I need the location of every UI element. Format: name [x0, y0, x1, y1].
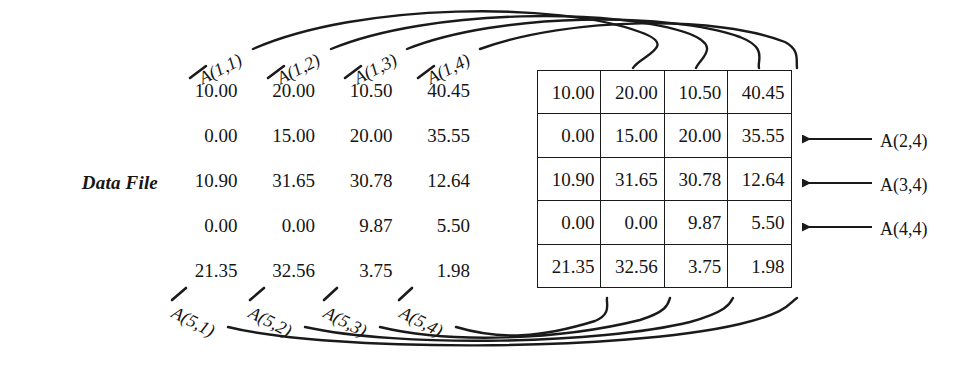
- data-file-cell: 35.55: [399, 123, 477, 149]
- table-row: 10.00 20.00 10.50 40.45: [538, 71, 792, 114]
- data-file-row: 21.35 32.56 3.75 1.98: [166, 258, 476, 284]
- data-file-cell: 0.00: [166, 123, 244, 149]
- data-file-cell: 1.98: [399, 258, 477, 284]
- array-cell: 12.64: [728, 158, 791, 201]
- data-file-cell: 31.65: [244, 168, 322, 194]
- data-file-cell: 12.64: [399, 168, 477, 194]
- data-file-cell: 5.50: [399, 213, 477, 239]
- array-cell: 15.00: [601, 114, 664, 157]
- data-file-values: 10.00 20.00 10.50 40.45 0.00 15.00 20.00…: [166, 78, 476, 293]
- array-cell: 0.00: [601, 201, 664, 244]
- array-cell: 21.35: [538, 245, 601, 288]
- data-file-cell: 3.75: [321, 258, 399, 284]
- array-cell: 3.75: [665, 245, 728, 288]
- side-label-a-2-4: A(2,4): [880, 132, 928, 150]
- data-file-cell: 32.56: [244, 258, 322, 284]
- curve-label-a-5-4: A(5,4): [396, 302, 446, 341]
- array-table: 10.00 20.00 10.50 40.45 0.00 15.00 20.00…: [537, 70, 792, 288]
- curve-a-5-2: [305, 298, 733, 341]
- table-row: 21.35 32.56 3.75 1.98: [538, 245, 792, 288]
- array-cell: 0.00: [538, 114, 601, 157]
- array-cell: 0.00: [538, 201, 601, 244]
- array-cell: 5.50: [728, 201, 791, 244]
- bottom-curve-group: [228, 298, 797, 345]
- array-cell: 10.90: [538, 158, 601, 201]
- data-file-label: Data File: [18, 172, 158, 194]
- data-file-row: 10.90 31.65 30.78 12.64: [166, 168, 476, 194]
- curve-a-5-1: [228, 298, 797, 345]
- data-file-cell: 0.00: [166, 213, 244, 239]
- array-cell: 20.00: [665, 114, 728, 157]
- side-label-a-4-4: A(4,4): [880, 220, 928, 238]
- array-cell: 32.56: [601, 245, 664, 288]
- top-curve-group: [253, 11, 797, 68]
- side-arrow-group: [802, 139, 872, 227]
- data-file-cell: 20.00: [321, 123, 399, 149]
- curve-label-a-5-1: A(5,1): [168, 302, 218, 341]
- array-cell: 20.00: [601, 71, 664, 114]
- array-mapping-diagram: Data File 10.00 20.00 10.50 40.45 0.00 1…: [0, 0, 954, 367]
- side-label-a-3-4: A(3,4): [880, 176, 928, 194]
- table-row: 0.00 15.00 20.00 35.55: [538, 114, 792, 157]
- array-cell: 10.00: [538, 71, 601, 114]
- array-cell: 10.50: [665, 71, 728, 114]
- array-cell: 1.98: [728, 245, 791, 288]
- array-cell: 9.87: [665, 201, 728, 244]
- data-file-cell: 10.90: [166, 168, 244, 194]
- data-file-cell: 15.00: [244, 123, 322, 149]
- data-file-cell: 0.00: [244, 213, 322, 239]
- data-file-cell: 9.87: [321, 213, 399, 239]
- curve-label-a-5-3: A(5,3): [320, 302, 370, 341]
- array-cell: 40.45: [728, 71, 791, 114]
- table-row: 10.90 31.65 30.78 12.64: [538, 158, 792, 201]
- array-cell: 35.55: [728, 114, 791, 157]
- data-file-cell: 30.78: [321, 168, 399, 194]
- data-file-row: 0.00 0.00 9.87 5.50: [166, 213, 476, 239]
- array-cell: 31.65: [601, 158, 664, 201]
- curve-a-5-4: [456, 298, 607, 335]
- data-file-cell: 21.35: [166, 258, 244, 284]
- curve-label-a-5-2: A(5,2): [245, 302, 295, 341]
- data-file-row: 0.00 15.00 20.00 35.55: [166, 123, 476, 149]
- table-row: 0.00 0.00 9.87 5.50: [538, 201, 792, 244]
- array-cell: 30.78: [665, 158, 728, 201]
- curve-a-1-4: [480, 23, 797, 68]
